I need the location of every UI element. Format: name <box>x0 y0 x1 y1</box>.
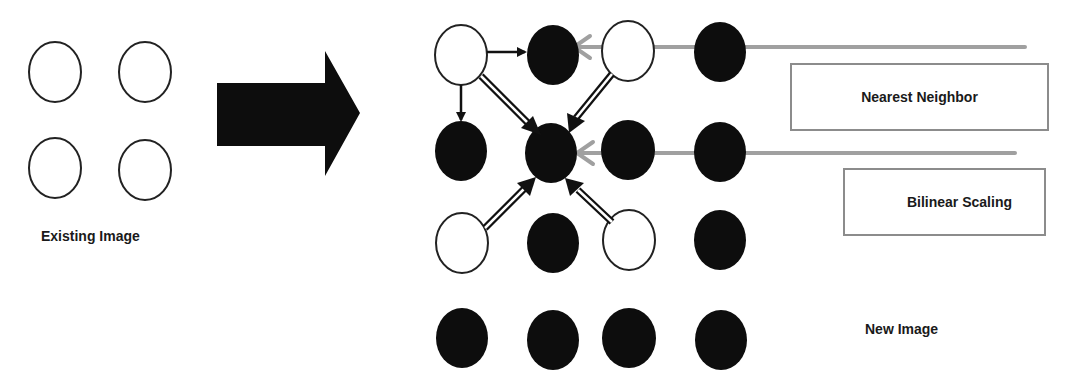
existing-pixel <box>119 42 171 102</box>
existing-image-label: Existing Image <box>41 228 140 244</box>
nearest-neighbor-box: Nearest Neighbor <box>790 63 1049 131</box>
new-pixel-interpolated <box>527 310 579 370</box>
new-pixel-interpolated <box>527 213 579 273</box>
new-image-grid <box>435 21 747 370</box>
nearest-neighbor-label: Nearest Neighbor <box>861 89 978 105</box>
new-pixel-interpolated <box>694 22 746 82</box>
double-arrow <box>481 76 541 135</box>
new-pixel-interpolated <box>602 308 656 368</box>
double-arrow <box>567 74 612 133</box>
existing-pixel <box>29 138 81 198</box>
bilinear-scaling-label: Bilinear Scaling <box>877 194 1012 210</box>
new-pixel-interpolated <box>694 122 746 182</box>
new-pixel-interpolated <box>436 308 488 368</box>
new-pixel-interpolated <box>435 121 487 181</box>
new-pixel-interpolated <box>527 25 579 85</box>
existing-pixel <box>29 42 81 102</box>
new-pixel-existing <box>435 25 487 85</box>
new-pixel-interpolated <box>601 120 655 180</box>
transform-arrow-icon <box>217 51 360 176</box>
double-arrow <box>485 177 536 228</box>
double-arrow <box>565 178 612 222</box>
existing-pixel <box>119 140 171 200</box>
new-pixel-existing <box>436 213 488 273</box>
new-image-label: New Image <box>865 321 938 337</box>
existing-image-grid <box>29 42 171 200</box>
new-pixel-interpolated <box>694 210 746 270</box>
new-pixel-existing <box>602 21 654 81</box>
bilinear-scaling-box: Bilinear Scaling <box>843 168 1046 236</box>
new-pixel-interpolated <box>695 310 747 370</box>
